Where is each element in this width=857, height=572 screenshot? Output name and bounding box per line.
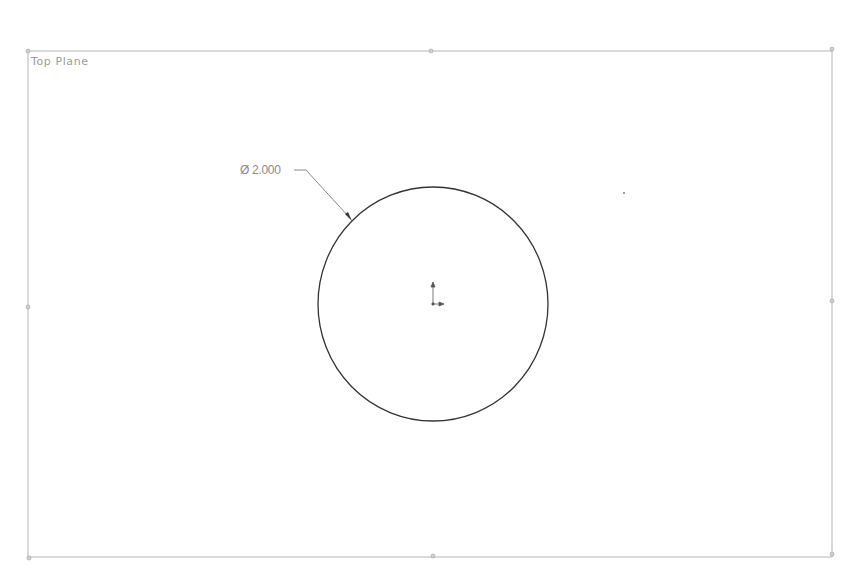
handle-bottom-right[interactable] [830, 552, 834, 556]
graphics-viewport[interactable]: Top Plane Ø 2.000 [0, 0, 857, 572]
handle-bottom-left[interactable] [27, 556, 31, 560]
dimension-leader[interactable] [294, 170, 349, 217]
top-plane-frame[interactable] [28, 51, 832, 557]
handle-top-right[interactable] [830, 47, 834, 51]
handle-left-mid[interactable] [26, 305, 30, 309]
handle-top-left[interactable] [26, 49, 30, 53]
handle-right-mid[interactable] [830, 299, 834, 303]
handle-bottom-mid[interactable] [431, 554, 435, 558]
plane-label: Top Plane [31, 55, 89, 68]
handle-top-mid[interactable] [429, 49, 433, 53]
diameter-dimension[interactable]: Ø 2.000 [240, 163, 281, 177]
sketch-point[interactable] [623, 192, 625, 194]
plane-handles[interactable] [26, 47, 834, 560]
sketch-canvas[interactable] [0, 0, 857, 572]
origin-icon [431, 282, 444, 306]
leader-arrow-icon [345, 212, 352, 221]
